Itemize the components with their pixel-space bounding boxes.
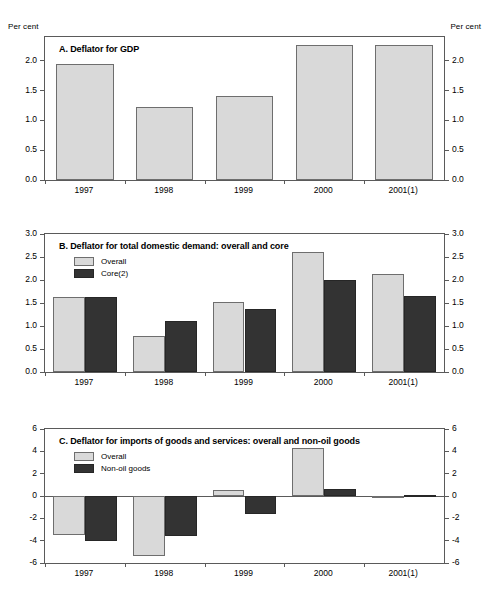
panel-b-title: B. Deflator for total domestic demand: o… [59, 241, 289, 251]
panel-b: B. Deflator for total domestic demand: o… [0, 225, 489, 410]
y-tick [40, 280, 45, 281]
y-tick-label: 0.0 [25, 367, 37, 376]
plot-area-b: B. Deflator for total domestic demand: o… [44, 233, 445, 373]
y-tick [40, 349, 45, 350]
y-tick-label: 1.5 [25, 86, 37, 95]
legend-label-core-b: Core(2) [101, 269, 128, 278]
y-tick-label: -2 [452, 513, 460, 522]
panel-a-title: A. Deflator for GDP [59, 44, 139, 54]
bar [136, 107, 193, 180]
y-tick-label: 1.0 [25, 115, 37, 124]
bar [133, 496, 165, 556]
x-axis-label: 1997 [74, 185, 93, 195]
bar [216, 96, 273, 180]
x-axis-label: 1999 [234, 185, 253, 195]
y-tick [444, 563, 449, 564]
y-tick-label: 1.0 [452, 115, 464, 124]
y-tick-label: 0.0 [452, 175, 464, 184]
y-tick [444, 303, 449, 304]
y-tick-label: 6 [32, 424, 37, 433]
legend-item-nonoil-c: Non-oil goods [74, 463, 150, 474]
y-tick [40, 451, 45, 452]
unit-label-left-a: Per cent [8, 22, 39, 31]
bar [245, 496, 277, 514]
bar [56, 64, 113, 180]
x-axis-a: 19971998199920002001(1) [44, 183, 445, 197]
y-tick [444, 451, 449, 452]
panel-c: C. Deflator for imports of goods and ser… [0, 420, 489, 600]
y-tick-label: -4 [29, 536, 37, 545]
y-tick-label: 0.5 [452, 344, 464, 353]
x-axis-label: 1998 [154, 185, 173, 195]
bar [213, 302, 245, 372]
panel-a: Per cent Per cent A. Deflator for GDP 0.… [0, 22, 489, 212]
y-tick [444, 372, 449, 373]
y-tick [40, 326, 45, 327]
bar [296, 45, 353, 180]
y-tick [444, 473, 449, 474]
legend-b: Overall Core(2) [74, 256, 128, 280]
y-tick [40, 257, 45, 258]
legend-c: Overall Non-oil goods [74, 451, 150, 475]
y-tick-label: 2.0 [452, 56, 464, 65]
y-tick [444, 496, 449, 497]
bar [372, 274, 404, 372]
panel-c-title: C. Deflator for imports of goods and ser… [59, 436, 360, 446]
y-tick-label: 6 [452, 424, 457, 433]
bar [245, 309, 277, 372]
y-tick-label: 2.0 [452, 275, 464, 284]
y-tick [444, 326, 449, 327]
y-tick [40, 234, 45, 235]
bar [165, 321, 197, 372]
y-tick-label: 0 [32, 491, 37, 500]
y-tick [40, 150, 45, 151]
x-axis-label: 1997 [74, 568, 93, 578]
legend-swatch-dark-icon [74, 464, 94, 473]
y-tick [444, 518, 449, 519]
y-tick [40, 540, 45, 541]
y-tick-label: 3.0 [452, 229, 464, 238]
y-tick-label: 0 [452, 491, 457, 500]
y-tick-label: 2.0 [25, 275, 37, 284]
bar [85, 496, 117, 541]
bar [324, 280, 356, 372]
y-tick-label: -6 [29, 558, 37, 567]
x-axis-b: 19971998199920002001(1) [44, 375, 445, 389]
y-tick-label: 2.5 [25, 252, 37, 261]
y-tick [40, 303, 45, 304]
legend-label-overall-c: Overall [101, 452, 126, 461]
y-tick [40, 90, 45, 91]
legend-label-overall-b: Overall [101, 257, 126, 266]
x-axis-label: 1998 [154, 568, 173, 578]
y-tick [444, 180, 449, 181]
y-tick-label: 1.0 [452, 321, 464, 330]
x-axis-label: 2000 [314, 377, 333, 387]
figure-deflators: Per cent Per cent A. Deflator for GDP 0.… [0, 0, 489, 610]
y-tick [444, 60, 449, 61]
x-axis-label: 2001(1) [388, 377, 417, 387]
bar [292, 252, 324, 372]
bar [404, 296, 436, 372]
bar [165, 496, 197, 536]
bar [53, 496, 85, 535]
y-tick-label: -2 [29, 513, 37, 522]
y-tick [444, 234, 449, 235]
legend-item-overall-b: Overall [74, 256, 128, 267]
y-tick-label: 0.0 [25, 175, 37, 184]
y-tick [444, 429, 449, 430]
y-tick [40, 429, 45, 430]
y-tick-label: 0.5 [25, 344, 37, 353]
legend-swatch-light-icon [74, 452, 94, 461]
plot-area-c: C. Deflator for imports of goods and ser… [44, 428, 445, 564]
y-tick-label: 2 [32, 469, 37, 478]
legend-swatch-light-icon [74, 257, 94, 266]
x-axis-label: 2001(1) [388, 568, 417, 578]
bar [85, 297, 117, 372]
x-axis-label: 1999 [234, 568, 253, 578]
y-tick-label: 0.5 [452, 145, 464, 154]
y-tick [444, 540, 449, 541]
x-axis-label: 1998 [154, 377, 173, 387]
y-tick-label: 2.5 [452, 252, 464, 261]
y-tick [40, 60, 45, 61]
legend-swatch-dark-icon [74, 269, 94, 278]
